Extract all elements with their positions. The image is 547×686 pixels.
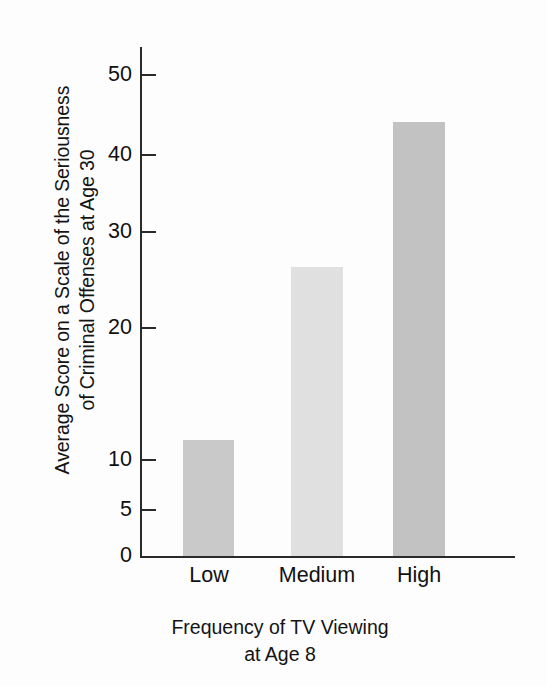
x-tick-label-high: High <box>373 563 465 588</box>
x-axis-title-line-1: Frequency of TV Viewing <box>90 614 470 641</box>
x-tick-label-medium: Medium <box>261 563 373 588</box>
bar-low-fill <box>183 440 234 556</box>
bar-medium-fill <box>291 267 343 556</box>
x-axis-title: Frequency of TV Viewing at Age 8 <box>90 614 470 668</box>
y-tick-label-30: 30 <box>86 219 132 244</box>
y-tick-20 <box>142 327 156 329</box>
plot-area: 50 40 30 20 10 5 0 Low Medium High <box>0 0 547 686</box>
y-tick-40 <box>142 154 156 156</box>
bar-low <box>183 440 234 556</box>
y-tick-30 <box>142 231 156 233</box>
y-tick-10 <box>142 459 156 461</box>
x-axis-title-line-2: at Age 8 <box>90 641 470 668</box>
y-tick-label-10: 10 <box>86 447 132 472</box>
bar-medium <box>291 267 343 556</box>
y-tick-label-50: 50 <box>86 62 132 87</box>
y-tick-label-5: 5 <box>86 497 132 522</box>
y-tick-label-0: 0 <box>86 543 132 568</box>
bar-high-fill <box>393 122 445 556</box>
y-tick-label-40: 40 <box>86 142 132 167</box>
x-axis-line <box>140 556 515 558</box>
y-tick-50 <box>142 74 156 76</box>
y-axis-line <box>140 47 142 558</box>
y-tick-label-20: 20 <box>86 315 132 340</box>
x-tick-label-low: Low <box>163 563 255 588</box>
bar-high <box>393 122 445 556</box>
bar-chart-figure: Average Score on a Scale of the Seriousn… <box>0 0 547 686</box>
y-tick-5 <box>142 509 156 511</box>
